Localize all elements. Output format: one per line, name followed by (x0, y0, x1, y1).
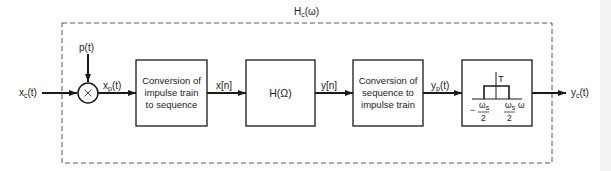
left-cutoff-sign-text: − (470, 105, 475, 115)
left-cutoff-den: 2 (481, 113, 486, 123)
yn-label: y[n] (321, 80, 337, 91)
page-edge-strip (600, 0, 611, 171)
block-c2d-line-2: impulse train (136, 87, 207, 99)
filter-axis-label: ω (518, 100, 525, 111)
block-d2c-line-2: sequence to (353, 87, 423, 99)
filter-axis-omega: ω (518, 100, 525, 110)
left-cutoff-num-sub: s (486, 104, 490, 111)
block-c2d-line-3: to sequence (136, 99, 207, 111)
right-cutoff-denominator: 2 (507, 113, 512, 124)
input-signal-label: xc(t) (19, 87, 37, 101)
input-label-arg: (t) (28, 87, 37, 98)
filter-gain-text: T (498, 73, 504, 84)
right-cutoff-num-sub: s (512, 104, 516, 111)
dt-filter-label: H(Ω) (246, 87, 315, 99)
xp-label-arg: (t) (112, 80, 121, 91)
block-d2c-line-1: Conversion of (353, 75, 423, 87)
left-cutoff-denominator: 2 (481, 113, 486, 124)
output-label-arg: (t) (580, 87, 589, 98)
right-cutoff-numerator: ωs (505, 100, 515, 113)
block-reconstruction-filter (462, 60, 532, 126)
right-cutoff-den: 2 (507, 113, 512, 123)
block-diagram-canvas (0, 0, 611, 171)
left-cutoff-num: ω (479, 100, 486, 110)
block-dt-filter-text: H(Ω) (246, 87, 315, 99)
yp-label-arg: (t) (440, 80, 449, 91)
sampling-label-text: p(t) (79, 42, 94, 53)
block-c2d-line-1: Conversion of (136, 75, 207, 87)
yp-signal-label: yp(t) (431, 80, 449, 94)
block-d2c-line-3: impulse train (353, 99, 423, 111)
right-cutoff-num: ω (505, 100, 512, 110)
filter-gain-label: T (498, 73, 504, 84)
output-signal-label: yc(t) (571, 87, 589, 101)
sampling-signal-label: p(t) (79, 42, 94, 53)
left-cutoff-sign: − (470, 105, 475, 116)
xn-label-text: x[n] (216, 80, 232, 91)
xn-label: x[n] (216, 80, 232, 91)
block-c2d-text: Conversion of impulse train to sequence (136, 75, 207, 111)
overall-label-arg: (ω) (305, 6, 319, 17)
block-d2c-text: Conversion of sequence to impulse train (353, 75, 423, 111)
yn-label-text: y[n] (321, 80, 337, 91)
sampled-signal-label: xp(t) (103, 80, 121, 94)
left-cutoff-numerator: ωs (479, 100, 489, 113)
overall-system-label: Hc(ω) (294, 6, 319, 20)
